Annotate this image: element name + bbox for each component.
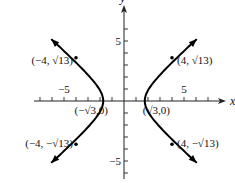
- point-label: (−4, √13): [31, 54, 73, 67]
- point-marker: [170, 143, 174, 147]
- x-axis-label: x: [229, 94, 235, 108]
- point-label: (−√3,0): [75, 104, 109, 117]
- point-marker: [74, 143, 78, 147]
- y-tick-label: 5: [116, 35, 122, 47]
- y-axis-label: y: [119, 0, 126, 5]
- point-marker: [74, 56, 78, 60]
- point-label: (4, √13): [177, 54, 213, 67]
- point-marker: [170, 56, 174, 60]
- point-label: (4, −√13): [177, 137, 219, 150]
- x-tick-label: 5: [181, 83, 187, 95]
- hyperbola-plot: −555−5 (4, √13)(−4, √13)(4, −√13)(−4, −√…: [0, 0, 235, 183]
- y-tick-label: −5: [109, 155, 121, 167]
- labeled-points: (4, √13)(−4, √13)(4, −√13)(−4, −√13)(√3,…: [25, 54, 219, 151]
- x-tick-label: −5: [58, 83, 70, 95]
- hyperbola-figure: −555−5 (4, √13)(−4, √13)(4, −√13)(−4, −√…: [0, 0, 235, 183]
- point-label: (√3,0): [143, 104, 170, 117]
- point-label: (−4, −√13): [25, 137, 73, 150]
